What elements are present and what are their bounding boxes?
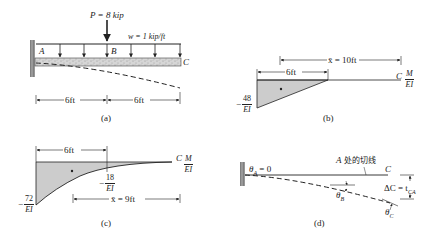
tangent-at-a-label: A 处的切线 (336, 156, 376, 165)
m-over-ei-axis-label: M EI (184, 155, 193, 174)
xbar-label: x̄ = 9ft (111, 195, 135, 204)
point-b-label: B (111, 47, 117, 56)
moment-value-48: 48 EI (242, 95, 252, 114)
theta-a-label: θA = 0 (249, 165, 271, 176)
caption-a: (a) (101, 113, 111, 123)
fixed-support-wall (240, 162, 245, 186)
moment-value-72: 72 EI (24, 195, 34, 214)
elastic-curve (245, 175, 390, 203)
point-c-label: C (176, 154, 182, 163)
xbar-label: x̄ = 10ft (328, 56, 357, 65)
deflected-shape (36, 63, 180, 88)
point-c-label: C (396, 72, 402, 81)
point-load-label: P = 8 kip (90, 11, 124, 20)
caption-d: (d) (314, 218, 325, 228)
theta-c-label: θC (385, 208, 393, 219)
dimension-lines-a (36, 92, 180, 104)
fixed-support-wall (30, 40, 35, 77)
delta-c-label: ΔC = tCA (384, 184, 416, 195)
moment-value-18: 18 EI (105, 174, 115, 193)
dim-6ft-label: 6ft (64, 146, 74, 155)
caption-c: (c) (101, 218, 111, 228)
centroid-dot (71, 170, 73, 172)
dim-right-label: 6ft (134, 96, 144, 105)
beam (35, 58, 181, 66)
dim-left-label: 6ft (65, 96, 75, 105)
point-c-label: C (183, 58, 189, 67)
diagram-canvas (0, 0, 436, 239)
distributed-load-label: w = 1 kip/ft (128, 33, 165, 41)
negative-sign: − (236, 99, 241, 109)
centroid-dot (280, 88, 282, 90)
theta-b-label: θB (336, 191, 344, 202)
negative-sign: − (99, 178, 104, 188)
caption-b: (b) (323, 113, 334, 123)
negative-sign: − (18, 199, 23, 209)
point-a-label: A (39, 47, 45, 56)
distributed-load-arrows (60, 44, 180, 57)
dim-6ft-label: 6ft (286, 68, 296, 77)
m-over-ei-axis-label: M EI (405, 70, 414, 89)
point-c-label: C (385, 165, 391, 174)
